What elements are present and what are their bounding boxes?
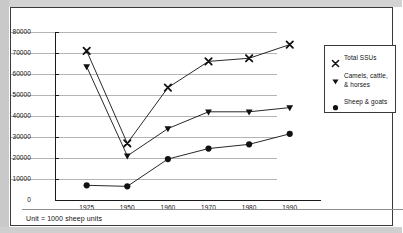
data-point-triangle bbox=[124, 154, 131, 160]
scan-edge-bottom bbox=[0, 227, 402, 233]
series-line bbox=[87, 45, 290, 144]
circle-marker-icon bbox=[331, 98, 340, 107]
data-point-circle bbox=[246, 141, 252, 147]
series-plot bbox=[55, 32, 321, 201]
legend-label-camels-cattle-horses: Camels, cattle, & horses bbox=[344, 72, 388, 89]
legend-label-sheep-goats: Sheep & goats bbox=[344, 98, 387, 107]
data-point-cross bbox=[83, 48, 89, 54]
chart-frame: 0100002000030000400005000060000700008000… bbox=[10, 7, 393, 226]
y-axis-tick-label: 70000 bbox=[12, 49, 31, 56]
data-point-circle bbox=[124, 183, 130, 189]
scan-edge-top bbox=[0, 0, 402, 7]
y-axis-tick-label: 80000 bbox=[12, 28, 31, 35]
data-point-circle bbox=[165, 156, 171, 162]
scan-edge-left bbox=[0, 0, 9, 233]
legend-item-sheep-goats: Sheep & goats bbox=[331, 98, 387, 107]
legend-item-camels-cattle-horses: Camels, cattle, & horses bbox=[331, 72, 388, 89]
y-axis-tick-label: 40000 bbox=[12, 112, 31, 119]
data-point-cross bbox=[165, 84, 171, 90]
series-line bbox=[87, 134, 290, 187]
y-axis-tick-label: 50000 bbox=[12, 91, 31, 98]
series-line bbox=[87, 67, 290, 156]
data-point-circle bbox=[287, 131, 293, 137]
data-point-circle bbox=[205, 145, 211, 151]
y-axis-tick-label: 20000 bbox=[12, 154, 31, 161]
data-point-triangle bbox=[246, 109, 253, 115]
x-cross-marker-icon bbox=[331, 54, 340, 63]
triangle-down-marker-icon bbox=[331, 72, 340, 81]
caption-divider bbox=[22, 209, 403, 210]
chart-legend: Total SSUs Camels, cattle, & horses Shee… bbox=[324, 45, 396, 113]
y-axis-tick-label: 10000 bbox=[12, 175, 31, 182]
data-point-triangle bbox=[83, 64, 90, 70]
data-point-cross bbox=[287, 41, 293, 47]
data-point-cross bbox=[124, 140, 130, 146]
y-axis-tick-label: 30000 bbox=[12, 133, 31, 140]
legend-label-total-ssus: Total SSUs bbox=[344, 54, 377, 63]
data-point-triangle bbox=[165, 126, 172, 132]
legend-item-total-ssus: Total SSUs bbox=[331, 54, 377, 63]
unit-note: Unit = 1000 sheep units bbox=[26, 215, 102, 222]
y-axis-tick-label: 0 bbox=[27, 196, 31, 203]
y-axis-tick-label: 60000 bbox=[12, 70, 31, 77]
data-point-circle bbox=[84, 182, 90, 188]
